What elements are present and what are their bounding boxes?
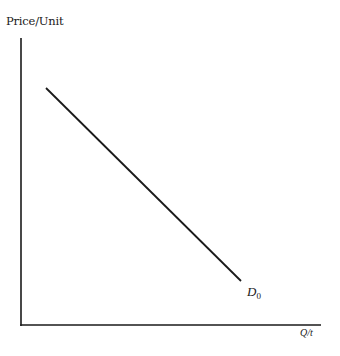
y-axis-label: Price/Unit (6, 14, 63, 28)
demand-diagram: Price/Unit D0 Q/t (0, 0, 340, 356)
x-axis-label: Q/t (300, 327, 313, 338)
demand-curve-line (46, 88, 241, 281)
curve-label-subscript: 0 (256, 291, 261, 301)
curve-label-main: D (247, 284, 256, 299)
demand-curve-label: D0 (247, 284, 261, 301)
diagram-graphic (0, 0, 340, 356)
